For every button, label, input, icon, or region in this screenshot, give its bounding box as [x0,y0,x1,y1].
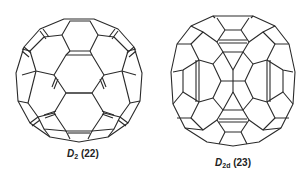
compound-number: (23) [233,157,251,168]
label-d2-22: D2 (22) [67,148,99,160]
fullerene-d2-structure [14,17,144,143]
label-d2d-23: D2d (23) [215,157,251,169]
compound-number: (22) [81,148,99,159]
symmetry-subscript: 2 [74,153,78,160]
symmetry-subscript: 2d [222,162,230,169]
fullerene-d2d-structure [169,14,297,148]
